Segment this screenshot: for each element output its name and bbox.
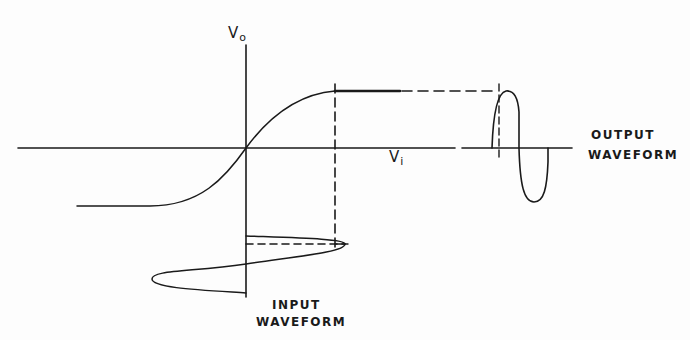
output-caption-line1: OUTPUT xyxy=(588,127,678,143)
transfer-characteristic-diagram: Vo Vi OUTPUT WAVEFORM INPUT WAVEFORM xyxy=(0,0,690,340)
input-caption-line2: WAVEFORM xyxy=(256,314,346,330)
diagram-graphics xyxy=(0,0,690,340)
y-axis-label-main: V xyxy=(228,24,239,42)
x-axis-label: Vi xyxy=(389,148,404,168)
output-waveform xyxy=(492,91,548,202)
x-axis-label-subscript: i xyxy=(400,155,404,168)
output-waveform-caption: OUTPUT WAVEFORM xyxy=(588,127,678,163)
input-waveform-caption: INPUT WAVEFORM xyxy=(256,297,346,330)
input-caption-line1: INPUT xyxy=(256,297,346,313)
y-axis-label: Vo xyxy=(228,24,247,44)
x-axis-label-main: V xyxy=(389,148,400,166)
y-axis-label-subscript: o xyxy=(239,31,247,44)
output-caption-line2: WAVEFORM xyxy=(588,147,678,163)
